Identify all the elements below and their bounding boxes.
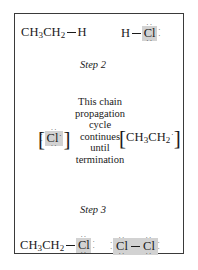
lone-pair-top-icon: ·· bbox=[119, 235, 126, 242]
lone-pair-bottom-icon: ·· bbox=[146, 251, 153, 258]
bracket-close: ] bbox=[174, 126, 181, 150]
lone-pair-bottom-icon: ·· bbox=[80, 250, 87, 257]
lone-pair-right-icon: ·· bbox=[92, 240, 95, 251]
bond-line bbox=[132, 33, 141, 34]
cycle-caption: This chain propagation cycle continues u… bbox=[62, 96, 138, 166]
lone-pair-top-icon: ·· bbox=[51, 127, 58, 134]
reactant-chlorine-molecule: ····Cl····Cl···· bbox=[113, 238, 158, 255]
product-hydrogen-chloride: H··Cl···· bbox=[121, 26, 157, 41]
product-ethyl-chloride: CH3CH2··Cl···· bbox=[20, 238, 91, 253]
chlorine-atom-highlight: ··Cl···· bbox=[76, 238, 91, 253]
reactant-ethane: CH3CH2H bbox=[21, 26, 87, 40]
lone-pair-right-icon: ·· bbox=[158, 241, 161, 252]
chlorine-atom-left-group: ····Cl·· bbox=[115, 239, 130, 254]
cycle-caption-line: termination bbox=[62, 154, 138, 166]
bond-line bbox=[131, 246, 140, 247]
chain-propagation-figure: CH3CH2H H··Cl···· [····Cl···] [CH3CH2·] … bbox=[0, 0, 198, 270]
ethyl-formula: CH3CH2 bbox=[20, 238, 64, 252]
cycle-caption-line: continues bbox=[62, 131, 138, 143]
step-3-label: Step 3 bbox=[79, 204, 107, 215]
lone-pair-bottom-icon: ·· bbox=[146, 38, 153, 45]
bond-line bbox=[66, 245, 75, 246]
lone-pair-top-icon: ·· bbox=[80, 234, 87, 241]
step-2-label: Step 2 bbox=[79, 59, 107, 70]
lone-pair-top-icon: ·· bbox=[146, 235, 153, 242]
cycle-caption-line: This chain bbox=[62, 96, 138, 108]
lone-pair-left-icon: ·· bbox=[41, 133, 44, 144]
chlorine-molecule-highlight: ····Cl····Cl···· bbox=[113, 238, 158, 255]
chlorine-atom-highlight: ··Cl···· bbox=[142, 26, 157, 41]
hydrogen-atom: H bbox=[121, 26, 130, 40]
lone-pair-left-icon: ·· bbox=[110, 241, 113, 252]
bond-line bbox=[67, 32, 76, 33]
cycle-caption-line: until bbox=[62, 142, 138, 154]
hydrogen-atom: H bbox=[77, 25, 86, 39]
lone-pair-bottom-icon: ·· bbox=[119, 251, 126, 258]
lone-pair-right-icon: ·· bbox=[158, 28, 161, 39]
cycle-caption-line: propagation bbox=[62, 108, 138, 120]
chlorine-radical-highlight: ····Cl··· bbox=[45, 131, 63, 146]
lone-pair-bottom-icon: ·· bbox=[51, 143, 58, 150]
chlorine-atom-right-group: ··Cl···· bbox=[142, 239, 157, 254]
ethane-formula: CH3CH2 bbox=[21, 25, 65, 39]
cycle-caption-line: cycle bbox=[62, 119, 138, 131]
lone-pair-top-icon: ·· bbox=[146, 22, 153, 29]
